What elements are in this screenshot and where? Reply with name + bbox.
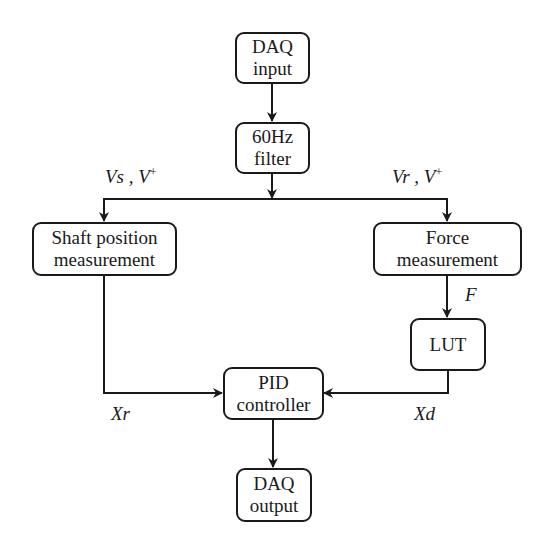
- node-label: filter: [254, 148, 291, 170]
- node-label: DAQ: [253, 473, 294, 495]
- edge-label-f: F: [465, 284, 477, 306]
- node-label: LUT: [430, 334, 467, 356]
- node-label: 60Hz: [252, 126, 293, 148]
- node-daq-output: DAQ output: [236, 468, 312, 522]
- node-shaft-position-measurement: Shaft position measurement: [32, 222, 177, 276]
- edge-label-vr: Vr , V+: [392, 166, 442, 188]
- node-label: controller: [237, 394, 311, 416]
- edge-label-xr: Xr: [111, 403, 130, 425]
- node-label: measurement: [54, 249, 155, 271]
- node-daq-input: DAQ input: [235, 32, 310, 84]
- node-force-measurement: Force measurement: [373, 222, 522, 276]
- node-label: input: [253, 58, 292, 80]
- arrow-lut-to-pid: [324, 370, 448, 393]
- edge-label-xd: Xd: [414, 403, 435, 425]
- node-label: Force: [426, 227, 469, 249]
- arrow-shaft-to-pid: [104, 275, 222, 393]
- node-pid-controller: PID controller: [223, 367, 324, 420]
- node-label: DAQ: [252, 36, 293, 58]
- node-label: measurement: [397, 249, 498, 271]
- node-label: PID: [258, 372, 289, 394]
- node-60hz-filter: 60Hz filter: [235, 122, 310, 174]
- node-lut: LUT: [410, 318, 486, 371]
- node-label: output: [250, 495, 299, 517]
- bus-left: [104, 199, 272, 221]
- edge-label-vs: Vs , V+: [105, 166, 157, 188]
- bus-right: [272, 199, 447, 221]
- node-label: Shaft position: [51, 227, 157, 249]
